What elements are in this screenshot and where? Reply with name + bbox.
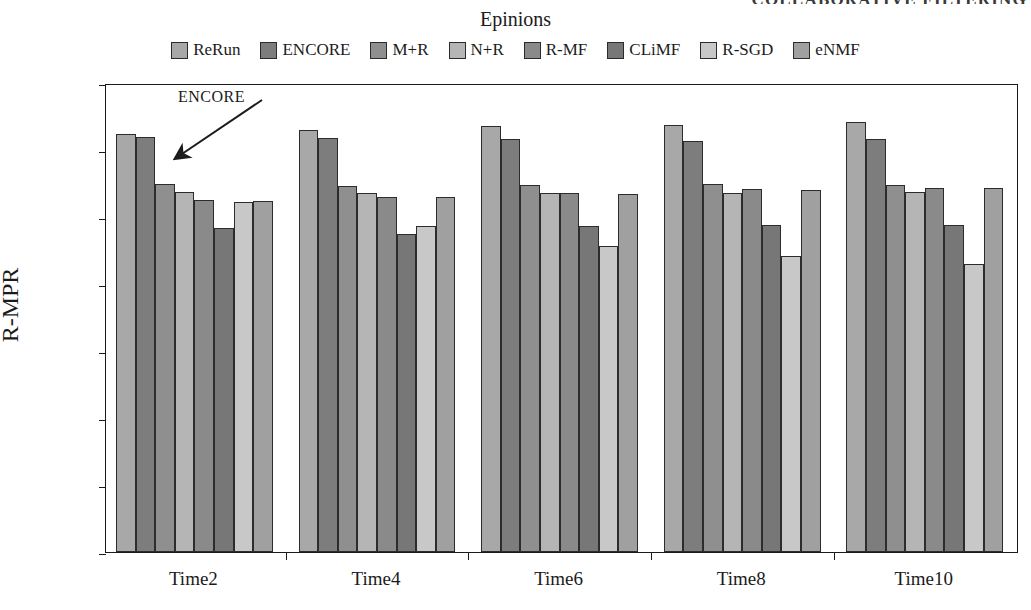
bar — [234, 202, 254, 552]
bar-group-time10 — [846, 85, 1003, 552]
bar — [116, 134, 136, 552]
bar — [781, 256, 801, 552]
legend-item-label: N+R — [471, 40, 504, 60]
y-tick-mark — [99, 487, 106, 488]
legend-swatch-icon — [700, 42, 717, 59]
bar — [579, 226, 599, 552]
bar-group-time2 — [116, 85, 273, 552]
legend-item-n-r: N+R — [449, 40, 504, 60]
bar — [299, 130, 319, 552]
legend-swatch-icon — [370, 42, 387, 59]
y-tick-mark — [99, 152, 106, 153]
legend-item-m-r: M+R — [370, 40, 428, 60]
y-tick-mark — [99, 554, 106, 555]
bar-group-time4 — [299, 85, 456, 552]
x-tick-mark — [468, 552, 469, 560]
bar — [846, 122, 866, 552]
legend-item-label: eNMF — [815, 40, 859, 60]
x-tick-mark — [834, 552, 835, 560]
x-tick-label: Time8 — [717, 568, 766, 590]
legend-swatch-icon — [449, 42, 466, 59]
bar — [560, 193, 580, 552]
bar — [618, 194, 638, 552]
bar — [762, 225, 782, 552]
y-tick-mark — [99, 353, 106, 354]
legend-item-enmf: eNMF — [793, 40, 859, 60]
chart-legend: ReRunENCOREM+RN+RR-MFCLiMFR-SGDeNMF — [0, 40, 1031, 60]
bar — [318, 138, 338, 552]
y-tick-mark — [99, 420, 106, 421]
bar — [886, 185, 906, 552]
bar — [742, 189, 762, 552]
legend-item-climf: CLiMF — [607, 40, 680, 60]
legend-item-label: ReRun — [193, 40, 240, 60]
x-tick-label: Time4 — [352, 568, 401, 590]
bar — [866, 139, 886, 552]
bar — [481, 126, 501, 552]
bar — [377, 197, 397, 552]
bar — [520, 185, 540, 552]
y-tick-mark — [99, 219, 106, 220]
bar — [801, 190, 821, 552]
bar — [136, 137, 156, 552]
bar — [925, 188, 945, 552]
legend-item-label: M+R — [392, 40, 428, 60]
bar — [984, 188, 1004, 552]
y-tick-mark — [99, 286, 106, 287]
legend-item-encore: ENCORE — [260, 40, 350, 60]
bar-group-time8 — [664, 85, 821, 552]
x-tick-label: Time6 — [534, 568, 583, 590]
bars-layer — [106, 85, 1017, 552]
legend-swatch-icon — [793, 42, 810, 59]
legend-item-label: ENCORE — [282, 40, 350, 60]
bar — [599, 246, 619, 552]
bar — [964, 264, 984, 552]
bar — [175, 192, 195, 552]
x-tick-label: Time2 — [169, 568, 218, 590]
legend-swatch-icon — [260, 42, 277, 59]
legend-swatch-icon — [171, 42, 188, 59]
bar — [664, 125, 684, 552]
y-axis-title: R-MPR — [0, 205, 24, 405]
legend-item-rerun: ReRun — [171, 40, 240, 60]
chart-title: Epinions — [0, 8, 1031, 31]
legend-swatch-icon — [607, 42, 624, 59]
plot-area: 0.000.050.100.150.200.250.300.35 — [105, 84, 1018, 553]
bar — [501, 139, 521, 552]
bar — [703, 184, 723, 553]
x-tick-mark — [651, 552, 652, 560]
x-tick-label: Time10 — [895, 568, 953, 590]
bar — [540, 193, 560, 552]
bar — [214, 228, 234, 552]
bar — [436, 197, 456, 552]
bar — [194, 200, 214, 552]
bar — [905, 192, 925, 552]
bar — [683, 141, 703, 552]
bar — [416, 226, 436, 552]
legend-item-label: R-MF — [546, 40, 588, 60]
y-tick-mark — [99, 85, 106, 86]
legend-item-label: R-SGD — [722, 40, 773, 60]
bar — [253, 201, 273, 552]
legend-item-label: CLiMF — [629, 40, 680, 60]
bar — [723, 193, 743, 552]
page-running-header: COLLABORATIVE FILTERING — [0, 0, 1031, 4]
bar-group-time6 — [481, 85, 638, 552]
bar — [397, 234, 417, 552]
legend-item-r-mf: R-MF — [524, 40, 588, 60]
bar — [357, 193, 377, 552]
bar — [944, 225, 964, 552]
bar — [338, 186, 358, 552]
legend-item-r-sgd: R-SGD — [700, 40, 773, 60]
bar — [155, 184, 175, 553]
annotation-encore-label: ENCORE — [178, 88, 245, 106]
x-tick-mark — [286, 552, 287, 560]
legend-swatch-icon — [524, 42, 541, 59]
running-header-text: COLLABORATIVE FILTERING — [751, 0, 1027, 4]
